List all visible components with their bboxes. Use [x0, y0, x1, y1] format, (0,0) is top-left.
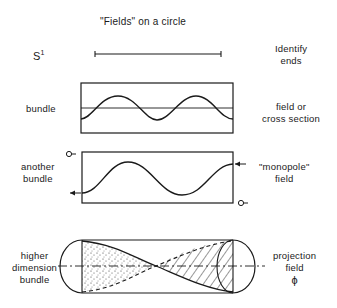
- identify-marker-bottom-icon: [238, 200, 248, 205]
- higher-dimension-cylinder: [58, 240, 265, 293]
- stippled-region: [82, 241, 156, 292]
- bundle-box: [81, 83, 233, 133]
- monopole-wave: [82, 162, 233, 195]
- another-bundle-box: [66, 151, 248, 205]
- diagram-figure: [0, 0, 337, 308]
- arrow-right-icon: [235, 162, 246, 167]
- interval-segment: [95, 51, 221, 57]
- identify-marker-top-icon: [66, 151, 76, 156]
- arrow-left-icon: [70, 191, 81, 196]
